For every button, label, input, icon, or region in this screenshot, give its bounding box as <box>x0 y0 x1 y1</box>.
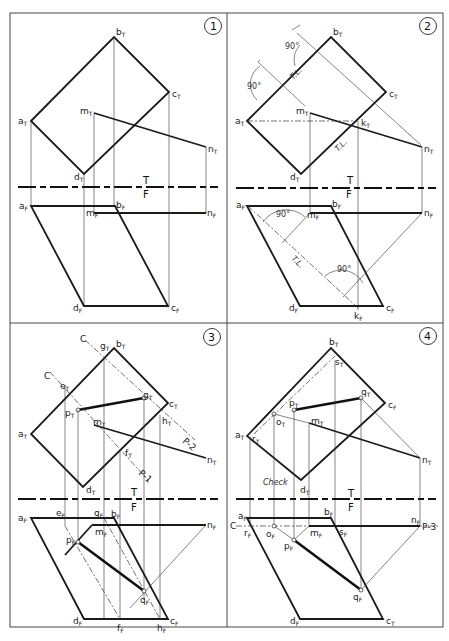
label-nF: nF <box>207 520 217 531</box>
true-length-label-3: T.L. <box>290 254 306 270</box>
label-cutting-C: C <box>230 521 236 531</box>
plane-abcd-top-view <box>247 348 385 480</box>
label-bT: bT <box>116 27 126 38</box>
label-cF: cF <box>386 303 395 314</box>
label-cT: cT <box>169 399 178 410</box>
label-oT: oT <box>276 417 286 428</box>
label-oF: oF <box>266 529 276 540</box>
label-aF: aF <box>238 511 248 522</box>
piercing-line-pq-top <box>78 398 144 410</box>
label-pF: pF <box>66 535 76 546</box>
label-nT: nT <box>424 144 434 155</box>
label-fold-T: T <box>130 487 138 498</box>
label-hF: hF <box>157 623 167 634</box>
true-length-label-1: T.L. <box>288 66 304 82</box>
label-cT: cT <box>389 89 398 100</box>
label-aT: aT <box>235 430 245 441</box>
label-pT: pT <box>65 408 75 419</box>
panel-frame <box>10 13 443 627</box>
label-fold-T: T <box>347 488 355 499</box>
label-mF: mF <box>95 527 108 538</box>
angle-90-label-4: 90° <box>337 265 351 274</box>
label-cT-bottom: cT <box>386 616 395 627</box>
label-aF: aF <box>19 201 29 212</box>
label-mT: mT <box>80 106 93 117</box>
piercing-line-pq-top <box>294 398 361 410</box>
label-aF: aF <box>18 513 28 524</box>
label-bT: bT <box>329 337 339 348</box>
label-fold-T: T <box>346 175 354 186</box>
label-P2: P-2 <box>181 436 198 453</box>
label-bF: bF <box>116 200 126 211</box>
panel-number-4: 4 <box>424 330 431 343</box>
label-bF: bF <box>332 199 342 210</box>
panel-2: 2 bT cT aT mT kT nT <box>235 18 437 323</box>
label-dF: dF <box>73 303 83 314</box>
label-nT: nT <box>208 144 218 155</box>
label-kT: kT <box>361 118 370 129</box>
label-C-2: C <box>44 371 50 381</box>
label-dF: dF <box>290 616 300 627</box>
label-nT: nT <box>207 455 217 466</box>
label-dT: dT <box>290 172 300 183</box>
panel-number-2: 2 <box>424 20 431 33</box>
label-fT: fT <box>125 448 132 459</box>
label-bF: bF <box>111 509 121 520</box>
label-rF: rF <box>244 528 252 539</box>
line-mn-top-view <box>309 423 420 458</box>
label-gF: gF <box>94 508 104 519</box>
label-aF: aF <box>236 200 246 211</box>
label-cF: cF <box>171 303 180 314</box>
label-pF: pF <box>284 541 294 552</box>
label-mF: mF <box>307 210 320 221</box>
label-cT: cT <box>172 89 181 100</box>
panel-number-1: 1 <box>210 20 217 33</box>
label-bT: bT <box>333 27 343 38</box>
label-mT: mT <box>296 106 309 117</box>
label-mF: mF <box>86 208 99 219</box>
label-nT: nT <box>422 455 432 466</box>
label-cF-top: cF <box>388 400 397 411</box>
label-qT: qT <box>361 387 371 398</box>
label-P3: P-3 <box>422 522 436 532</box>
panel-number-3: 3 <box>208 331 215 344</box>
label-rT: rT <box>252 434 260 445</box>
label-hT: hT <box>162 416 172 427</box>
true-length-construction <box>258 25 421 145</box>
plane-abcd-front-view <box>247 206 383 306</box>
label-eF: eF <box>56 508 66 519</box>
plane-abcd-front-view <box>31 206 168 306</box>
label-aT: aT <box>18 429 28 440</box>
panel-1: 1 bT cT aT mT nT dT T F aF bF mF nF dF c… <box>18 18 222 315</box>
plane-abcd-top-view <box>247 37 386 174</box>
label-dT: dT <box>86 485 96 496</box>
label-cF: cF <box>170 616 179 627</box>
line-mn-top-view <box>94 113 206 147</box>
label-nF: nF <box>411 515 421 526</box>
label-fold-F: F <box>143 189 149 200</box>
label-qF: qF <box>353 592 363 603</box>
label-dT: dT <box>74 172 84 183</box>
label-dT: dT <box>300 485 310 496</box>
label-aT: aT <box>235 116 245 127</box>
angle-90-label-2: 90° <box>247 82 261 91</box>
label-fF: fF <box>117 623 124 634</box>
piercing-line-pq-front <box>78 542 144 591</box>
label-qF: qF <box>140 595 150 606</box>
check-label: Check <box>263 478 288 487</box>
label-C-1: C <box>80 334 86 344</box>
angle-90-label-3: 90° <box>276 210 290 219</box>
label-mT: mT <box>311 416 324 427</box>
label-fold-F: F <box>348 502 354 513</box>
label-dF: dF <box>73 616 83 627</box>
label-fold-T: T <box>142 175 150 186</box>
descriptive-geometry-figure: 1 bT cT aT mT nT dT T F aF bF mF nF dF c… <box>0 0 449 641</box>
label-bT: bT <box>116 339 126 350</box>
label-gT-1: gT <box>100 341 110 352</box>
label-nF: nF <box>207 208 217 219</box>
plane-abcd-top-view <box>31 37 169 174</box>
piercing-line-pq-front <box>294 540 361 590</box>
label-fold-F: F <box>131 502 137 513</box>
label-sF: sF <box>339 527 348 538</box>
label-gT-2: gT <box>143 390 153 401</box>
